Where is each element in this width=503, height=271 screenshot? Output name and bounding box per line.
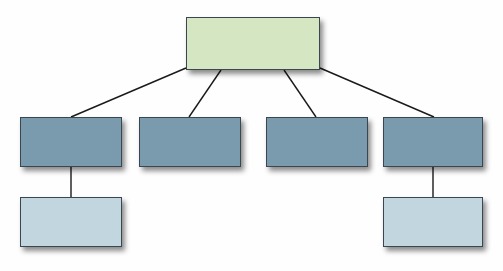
org-chart-diagram [0,0,503,271]
connector-root-child-2 [189,70,221,117]
connector-root-child-4 [320,68,434,117]
grandchild-node-1 [20,197,122,247]
grandchild-node-4 [383,197,483,247]
child-node-1 [20,117,122,167]
child-node-3 [266,117,368,167]
child-node-2 [139,117,241,167]
connector-root-child-1 [71,68,186,117]
connector-root-child-3 [284,70,316,117]
child-node-4 [383,117,483,167]
root-node [186,17,320,70]
